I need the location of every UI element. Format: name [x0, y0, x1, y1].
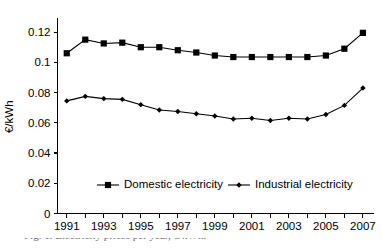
legend-label: Domestic electricity	[124, 178, 223, 190]
data-point-marker	[120, 97, 125, 102]
data-point-marker	[360, 30, 366, 36]
data-point-marker	[138, 102, 143, 107]
data-point-marker	[323, 112, 328, 117]
data-point-marker	[212, 113, 217, 118]
y-axis-tick-label: 0.02	[28, 177, 50, 189]
data-point-marker	[323, 52, 329, 58]
data-point-marker	[193, 49, 199, 55]
data-point-marker	[286, 116, 291, 121]
data-point-marker	[119, 40, 125, 46]
data-point-marker	[157, 107, 162, 112]
x-axis-tick-label: 2007	[350, 220, 376, 232]
data-point-marker	[267, 54, 273, 60]
data-point-marker	[268, 118, 273, 123]
data-point-marker	[64, 98, 69, 103]
x-axis-tick-label: 1991	[54, 220, 80, 232]
y-axis-tick-label: 0.1	[35, 56, 51, 68]
x-axis-tick-label: 1993	[91, 220, 117, 232]
legend-item: Industrial electricity	[228, 178, 353, 190]
data-point-marker	[194, 111, 199, 116]
legend-item: Domestic electricity	[97, 178, 223, 190]
y-axis-tick-label: 0.04	[28, 147, 51, 159]
y-axis-tick-label: 0.12	[28, 26, 50, 38]
data-point-marker	[212, 52, 218, 58]
x-axis-tick-label: 1997	[165, 220, 191, 232]
data-point-marker	[82, 37, 88, 43]
y-axis-tick-label: 0	[44, 208, 50, 220]
y-axis-title: €/kWh	[3, 100, 15, 133]
data-point-marker	[175, 109, 180, 114]
data-point-marker	[175, 47, 181, 53]
data-point-marker	[156, 44, 162, 50]
data-point-marker	[341, 46, 347, 52]
x-axis-tick-label: 1995	[128, 220, 154, 232]
y-axis-tick-label: 0.08	[28, 87, 50, 99]
x-axis-tick-label: 2001	[239, 220, 265, 232]
data-point-marker	[304, 54, 310, 60]
x-axis-tick-label: 1999	[202, 220, 228, 232]
data-point-marker	[64, 50, 70, 56]
data-point-marker	[236, 182, 241, 187]
data-point-marker	[305, 116, 310, 121]
legend-label: Industrial electricity	[255, 178, 353, 190]
data-point-marker	[138, 44, 144, 50]
x-axis-tick-label: 2005	[313, 220, 339, 232]
figure-caption-strip: Fig. 1. Electricity prices per year, €/k…	[0, 238, 382, 249]
data-point-marker	[231, 116, 236, 121]
line-chart: 00.020.040.060.080.10.121991199319951997…	[0, 0, 382, 249]
data-point-marker	[230, 54, 236, 60]
x-axis-tick-label: 2003	[276, 220, 302, 232]
data-point-marker	[249, 54, 255, 60]
y-axis-tick-label: 0.06	[28, 117, 50, 129]
data-point-marker	[105, 182, 111, 188]
figure-caption: Fig. 1. Electricity prices per year, €/k…	[24, 238, 206, 241]
data-point-marker	[286, 54, 292, 60]
chart-figure: 00.020.040.060.080.10.121991199319951997…	[0, 0, 382, 249]
data-point-marker	[249, 116, 254, 121]
data-point-marker	[83, 94, 88, 99]
data-point-marker	[101, 96, 106, 101]
data-point-marker	[101, 40, 107, 46]
